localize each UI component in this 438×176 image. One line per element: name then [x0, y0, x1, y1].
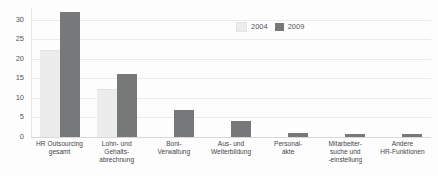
bar-group — [145, 8, 202, 137]
x-axis-label-line: abrechnung — [82, 156, 151, 164]
y-axis-tick-label: 10 — [16, 94, 24, 102]
bar-pair — [374, 8, 431, 137]
bar-2004-1 — [40, 50, 60, 137]
y-axis-tick-label: 0 — [20, 133, 24, 141]
legend-label: 2009 — [288, 23, 305, 31]
bar-2009-6 — [345, 134, 365, 137]
y-axis-tick-label: 5 — [20, 113, 24, 121]
x-axis-category-labels: HR OutsourcinggesamtLohn- undGehalts-abr… — [31, 140, 431, 176]
bar-chart: 051015202530 20042009 HR Outsourcinggesa… — [0, 0, 438, 176]
legend-item-2009[interactable]: 2009 — [275, 23, 305, 31]
bar-2009-3 — [174, 110, 194, 137]
x-axis-label-line: Andere — [368, 140, 437, 148]
x-axis-label-7: AndereHR-Funktionen — [368, 140, 437, 156]
bar-2004-2 — [97, 89, 117, 137]
bar-group — [317, 8, 374, 137]
plot-area — [31, 8, 431, 137]
legend-swatch-icon — [236, 22, 247, 32]
legend-item-2004[interactable]: 2004 — [236, 22, 268, 32]
y-axis: 051015202530 — [0, 8, 29, 137]
y-axis-tick-label: 15 — [16, 74, 24, 82]
bar-2009-1 — [60, 12, 80, 137]
bar-2009-5 — [288, 133, 308, 137]
bar-group — [31, 8, 88, 137]
y-axis-tick-label: 20 — [16, 55, 24, 63]
bar-pair — [88, 8, 145, 137]
y-axis-tick-label: 25 — [16, 35, 24, 43]
bar-group — [374, 8, 431, 137]
x-axis-label-line: HR-Funktionen — [368, 148, 437, 156]
legend-label: 2004 — [251, 23, 268, 31]
bar-group — [88, 8, 145, 137]
bar-2009-4 — [231, 121, 251, 137]
legend-swatch-icon — [275, 23, 284, 31]
axis-baseline — [31, 137, 431, 138]
legend: 20042009 — [236, 22, 304, 32]
bar-2009-2 — [117, 74, 137, 137]
bar-groups — [31, 8, 431, 137]
bar-pair — [145, 8, 202, 137]
x-axis-label-line: -einstellung — [311, 156, 380, 164]
bar-2009-7 — [402, 134, 422, 137]
y-axis-tick-label: 30 — [16, 16, 24, 24]
bar-pair — [317, 8, 374, 137]
bar-pair — [31, 8, 88, 137]
